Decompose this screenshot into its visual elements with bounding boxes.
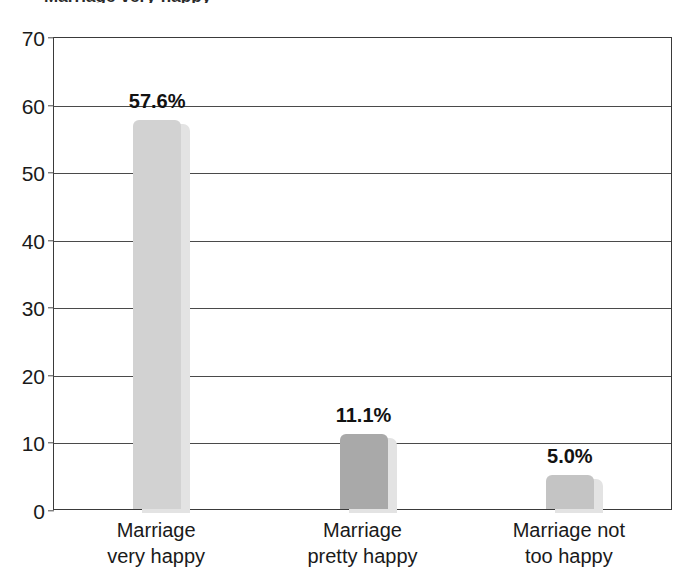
- x-axis-category-line: very happy: [107, 544, 205, 570]
- x-axis-category-label: Marriage nottoo happy: [513, 518, 625, 569]
- y-axis-tick-mark: [48, 308, 54, 309]
- x-axis-category-label: Marriagevery happy: [107, 518, 205, 569]
- bar-fill: [340, 434, 388, 509]
- y-axis-tick-mark: [48, 375, 54, 376]
- y-axis-tick-mark: [48, 240, 54, 241]
- x-axis-category-line: Marriage: [107, 518, 205, 544]
- plot-area: 01020304050607057.6%11.1%5.0%: [53, 37, 672, 510]
- y-axis-tick-mark: [48, 510, 54, 511]
- y-axis-tick-label: 70: [22, 28, 45, 49]
- bar-fill: [133, 120, 181, 509]
- bar[interactable]: 5.0%: [546, 475, 594, 509]
- y-axis-tick-mark: [48, 37, 54, 38]
- x-axis-category-line: Marriage not: [513, 518, 625, 544]
- x-axis-category-label: Marriagepretty happy: [307, 518, 417, 569]
- bar-value-label: 11.1%: [336, 405, 392, 425]
- chart-title-clipped: Marriage very happy: [44, 0, 464, 3]
- y-axis-tick-label: 50: [22, 163, 45, 184]
- x-axis-category-line: too happy: [513, 544, 625, 570]
- y-axis-tick-label: 0: [33, 501, 45, 522]
- y-axis-tick-label: 20: [22, 365, 45, 386]
- x-axis-category-line: pretty happy: [307, 544, 417, 570]
- bar-value-label: 57.6%: [129, 91, 186, 111]
- y-axis-tick-label: 40: [22, 230, 45, 251]
- y-axis-tick-label: 10: [22, 433, 45, 454]
- bar-chart-figure: Marriage very happy 01020304050607057.6%…: [0, 0, 696, 584]
- y-axis-tick-mark: [48, 172, 54, 173]
- y-axis-tick-label: 60: [22, 95, 45, 116]
- bar-value-label: 5.0%: [547, 446, 593, 466]
- bar-fill: [546, 475, 594, 509]
- x-axis-category-line: Marriage: [307, 518, 417, 544]
- y-axis-tick-mark: [48, 443, 54, 444]
- y-axis-tick-mark: [48, 105, 54, 106]
- y-axis-tick-label: 30: [22, 298, 45, 319]
- bar[interactable]: 57.6%: [133, 120, 181, 509]
- bar[interactable]: 11.1%: [340, 434, 388, 509]
